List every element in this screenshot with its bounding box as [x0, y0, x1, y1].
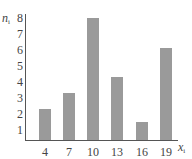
y-tick-label: 1: [14, 124, 23, 136]
x-tick-label: 19: [156, 146, 176, 158]
bar-chart: ni xi 12345678 4710131619: [0, 0, 192, 159]
bar-19: [160, 48, 172, 140]
bar-10: [87, 18, 99, 140]
x-tick-label: 10: [83, 146, 103, 158]
x-axis-label: xi: [178, 141, 185, 157]
y-tick-label: 2: [14, 108, 23, 120]
y-tick-label: 4: [14, 76, 23, 88]
y-tick-label: 5: [14, 60, 23, 72]
bar-4: [39, 109, 51, 140]
y-tick-label: 8: [14, 12, 23, 24]
x-axis: [25, 140, 178, 141]
y-tick-label: 7: [14, 28, 23, 40]
x-tick-label: 4: [35, 146, 55, 158]
y-axis-label: ni: [2, 12, 10, 28]
bar-7: [63, 93, 75, 140]
x-tick-label: 16: [132, 146, 152, 158]
y-axis: [25, 14, 26, 141]
bar-16: [136, 122, 148, 140]
x-tick-label: 13: [107, 146, 127, 158]
y-tick-label: 6: [14, 44, 23, 56]
x-tick-label: 7: [59, 146, 79, 158]
bar-13: [111, 77, 123, 140]
y-tick-label: 3: [14, 92, 23, 104]
